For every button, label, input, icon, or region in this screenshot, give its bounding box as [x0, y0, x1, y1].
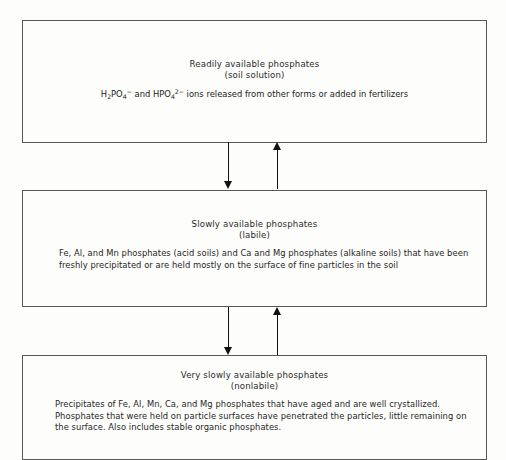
- arrow-head: [273, 142, 281, 150]
- box-slowly-available-phosphates: Slowly available phosphates (labile) Fe,…: [22, 190, 487, 307]
- arrow-head: [273, 307, 281, 315]
- arrow-head: [224, 347, 232, 355]
- box-readily-available-content: Readily available phosphates (soil solut…: [23, 59, 486, 101]
- arrow-head: [224, 181, 232, 189]
- box-slowly-available-heading: Slowly available phosphates: [23, 219, 486, 230]
- box-slowly-available-subheading: (labile): [23, 230, 486, 241]
- box-slowly-available-content: Slowly available phosphates (labile) Fe,…: [23, 219, 486, 271]
- arrow-down-icon: [223, 142, 234, 189]
- arrow-shaft: [228, 142, 229, 183]
- formula-tail: ions released from other forms or added …: [184, 89, 408, 99]
- arrow-shaft: [277, 148, 278, 189]
- box-very-slowly-available-body: Precipitates of Fe, Al, Mn, Ca, and Mg p…: [23, 399, 486, 433]
- box-very-slowly-available-content: Very slowly available phosphates (nonlab…: [23, 370, 486, 434]
- arrow-down-icon: [223, 307, 234, 355]
- box-readily-available-subheading: (soil solution): [23, 70, 486, 81]
- box-readily-available-heading: Readily available phosphates: [23, 59, 486, 70]
- formula-po: PO: [111, 89, 123, 99]
- formula-connector: and: [132, 89, 153, 99]
- formula-hpo-charge: 2−: [175, 88, 184, 95]
- arrow-up-icon: [272, 142, 283, 189]
- formula-hpo: HPO: [153, 89, 171, 99]
- box-readily-available-formula: H2PO4− and HPO42− ions released from oth…: [23, 89, 486, 100]
- arrow-up-icon: [272, 307, 283, 355]
- box-readily-available-phosphates: Readily available phosphates (soil solut…: [22, 20, 487, 143]
- box-very-slowly-available-phosphates: Very slowly available phosphates (nonlab…: [22, 355, 487, 460]
- arrow-shaft: [228, 307, 229, 349]
- arrow-shaft: [277, 313, 278, 355]
- box-very-slowly-available-heading: Very slowly available phosphates: [23, 370, 486, 381]
- box-very-slowly-available-subheading: (nonlabile): [23, 381, 486, 392]
- box-slowly-available-body: Fe, Al, and Mn phosphates (acid soils) a…: [23, 248, 486, 271]
